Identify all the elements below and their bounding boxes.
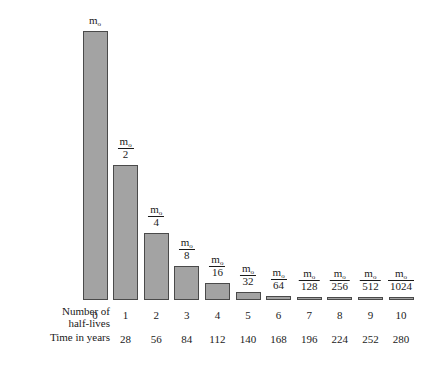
bar-4 bbox=[205, 283, 230, 300]
tick-half-lives-2: 2 bbox=[153, 309, 159, 321]
bar-value-label-8: mo256 bbox=[330, 268, 351, 292]
tick-half-lives-8: 8 bbox=[337, 309, 343, 321]
bar-0 bbox=[83, 31, 108, 300]
tick-half-lives-4: 4 bbox=[215, 309, 221, 321]
tick-time-8: 224 bbox=[332, 333, 349, 345]
bar-value-label-9: mo512 bbox=[360, 268, 381, 292]
tick-time-7: 196 bbox=[301, 333, 318, 345]
bar-3 bbox=[174, 266, 199, 300]
bar-10 bbox=[389, 297, 414, 300]
axis-title-time: Time in years bbox=[10, 331, 110, 343]
axis-row-time: Time in years 28568411214016819622425228… bbox=[0, 331, 435, 347]
tick-time-4: 112 bbox=[209, 333, 225, 345]
bar-9 bbox=[358, 297, 383, 300]
bar-value-label-0: mo bbox=[89, 15, 101, 26]
bar-value-label-4: mo16 bbox=[209, 254, 225, 278]
tick-half-lives-10: 10 bbox=[396, 309, 407, 321]
tick-half-lives-6: 6 bbox=[276, 309, 282, 321]
bar-5 bbox=[236, 292, 261, 300]
half-life-decay-chart: momo2mo4mo8mo16mo32mo64mo128mo256mo512mo… bbox=[0, 0, 435, 366]
tick-time-5: 140 bbox=[240, 333, 257, 345]
tick-time-2: 56 bbox=[151, 333, 162, 345]
bar-value-label-3: mo8 bbox=[179, 237, 195, 261]
tick-time-6: 168 bbox=[270, 333, 287, 345]
bar-value-label-1: mo2 bbox=[118, 136, 134, 160]
bar-value-label-5: mo32 bbox=[240, 263, 256, 287]
tick-time-3: 84 bbox=[181, 333, 192, 345]
tick-half-lives-3: 3 bbox=[184, 309, 190, 321]
bar-value-label-7: mo128 bbox=[299, 268, 320, 292]
tick-half-lives-7: 7 bbox=[306, 309, 312, 321]
bar-value-label-2: mo4 bbox=[148, 204, 164, 228]
tick-time-9: 252 bbox=[362, 333, 379, 345]
axis-row-half-lives: Number of half-lives 012345678910 bbox=[0, 306, 435, 322]
bar-value-label-6: mo64 bbox=[271, 267, 287, 291]
tick-half-lives-1: 1 bbox=[123, 309, 129, 321]
tick-half-lives-0: 0 bbox=[92, 309, 98, 321]
bar-6 bbox=[266, 296, 291, 300]
tick-time-10: 280 bbox=[393, 333, 410, 345]
tick-half-lives-5: 5 bbox=[245, 309, 251, 321]
tick-time-1: 28 bbox=[120, 333, 131, 345]
bar-8 bbox=[327, 297, 352, 300]
tick-half-lives-9: 9 bbox=[368, 309, 374, 321]
bar-1 bbox=[113, 165, 138, 300]
bar-2 bbox=[144, 233, 169, 300]
bar-value-label-10: mo1024 bbox=[388, 268, 414, 292]
bar-7 bbox=[297, 297, 322, 300]
